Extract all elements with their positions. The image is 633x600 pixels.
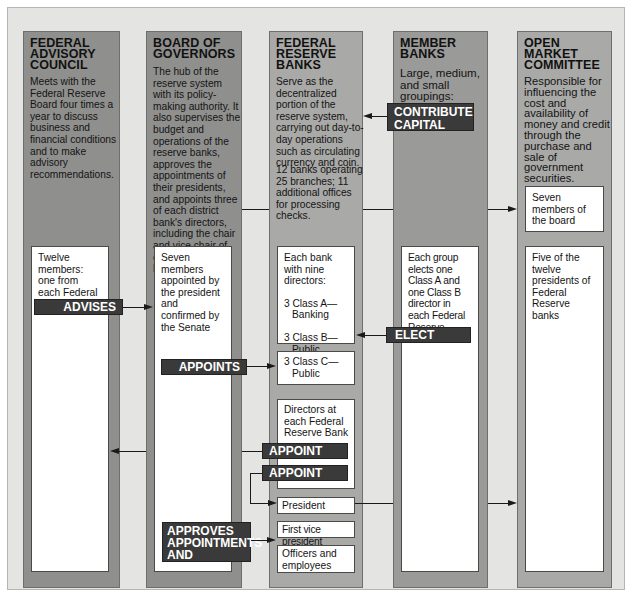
advises-label: ADVISES [34, 299, 123, 315]
appoint-label-2: APPOINT [262, 465, 348, 481]
column-federal-reserve-banks: FEDERAL RESERVE BANKS Serve as the decen… [269, 31, 363, 588]
title-line: COUNCIL [30, 60, 96, 71]
column-description: Meets with the Federal Reserve Board fou… [30, 76, 118, 180]
arrow-right-icon [508, 206, 517, 212]
tag-line: CAPITAL [394, 119, 467, 132]
title-line: COMMITTEE [524, 60, 600, 71]
connector-appoint-fac [242, 451, 262, 452]
column-description: Serve as the decentralized portion of th… [276, 76, 366, 169]
title-line: BANKS [276, 60, 336, 71]
box-text: President [282, 500, 350, 512]
arrow-right-icon [508, 500, 517, 506]
connector-president-to-omc [488, 503, 509, 504]
tag-line: AND SALARIES [167, 549, 246, 573]
class-b-label: 3 Class B— [284, 332, 348, 344]
frb-first-vp-box: First vice president [277, 521, 355, 538]
connector-appoint-president [250, 473, 251, 504]
connector-board-to-omc [363, 209, 393, 210]
column-stats: 12 banks operating 25 branches; 11 addit… [276, 164, 366, 222]
box-text: Directors at each Federal Reserve Bank [284, 404, 348, 439]
tag-text: APPOINT [269, 466, 322, 480]
column-description: Large, medium, and small groupings: [400, 68, 482, 103]
omc-presidents-box: Five of the twelve presidents of Federal… [525, 246, 604, 572]
arrow-right-icon [267, 537, 276, 543]
omc-board-members-box: Seven members of the board [525, 186, 604, 232]
connector-approves [251, 540, 267, 541]
arrow-right-icon [267, 363, 276, 369]
elect-label: ELECT [386, 327, 471, 343]
box-text: Officers and employees [282, 548, 350, 571]
connector-advises [123, 307, 144, 308]
class-a-sub: Banking [284, 309, 348, 321]
box-text: Seven members of the board [532, 192, 597, 227]
connector-appoint-president [250, 503, 268, 504]
connector-appoints [247, 366, 267, 367]
title-line: GOVERNORS [153, 49, 235, 60]
class-a-label: 3 Class A— [284, 298, 348, 310]
column-description: The hub of the reserve system with its p… [153, 66, 241, 275]
tag-text: APPOINT [269, 444, 322, 458]
contribute-capital-label: CONTRIBUTE CAPITAL [387, 103, 474, 131]
connector-appoint-fac [118, 451, 146, 452]
arrow-right-icon [144, 304, 153, 310]
column-board-of-governors: BOARD OF GOVERNORS The hub of the reserv… [146, 31, 242, 588]
box-text: Seven members appointed by the president… [161, 252, 225, 333]
column-title: MEMBER BANKS [400, 38, 456, 60]
arrow-left-icon [363, 113, 372, 119]
column-title: FEDERAL RESERVE BANKS [276, 38, 336, 71]
frb-directors-box: Each bank with nine directors: 3 Class A… [277, 246, 355, 344]
frb-president-box: President [277, 497, 355, 514]
box-text: Five of the twelve presidents of Federal… [532, 252, 597, 322]
column-title: OPEN MARKET COMMITTEE [524, 38, 600, 71]
connector-president-to-omc [355, 503, 393, 504]
title-line: BANKS [400, 49, 456, 60]
frb-officers-box: Officers and employees [277, 545, 355, 573]
connector-board-to-omc [488, 209, 509, 210]
connector-elect [364, 335, 386, 336]
arrow-right-icon [268, 500, 277, 506]
class-c-label: 3 Class C— [284, 356, 348, 368]
column-open-market-committee: OPEN MARKET COMMITTEE Responsible for in… [517, 31, 612, 588]
connector-board-to-omc [242, 209, 269, 210]
column-title: FEDERAL ADVISORY COUNCIL [30, 38, 96, 71]
appoint-label-1: APPOINT [262, 443, 348, 459]
fac-members-box: Twelve members: one from each Federal Re… [31, 246, 109, 572]
frb-class-c-box: 3 Class C— Public [277, 351, 355, 385]
connector-appoint-president [250, 473, 262, 474]
class-c-sub: Public [284, 368, 348, 380]
tag-text: ADVISES [63, 300, 116, 314]
box-text: Each bank with nine directors: [284, 252, 348, 287]
tag-text: APPOINTS [179, 360, 240, 374]
box-text: First vice president [282, 524, 350, 547]
appoints-label: APPOINTS [161, 359, 247, 375]
approves-label: APPROVES APPOINTMENTS AND SALARIES [162, 522, 251, 562]
column-title: BOARD OF GOVERNORS [153, 38, 235, 60]
member-banks-box: Each group elects one Class A and one Cl… [401, 246, 479, 572]
column-description: Responsible for influencing the cost and… [524, 76, 612, 184]
tag-text: ELECT [395, 328, 434, 342]
